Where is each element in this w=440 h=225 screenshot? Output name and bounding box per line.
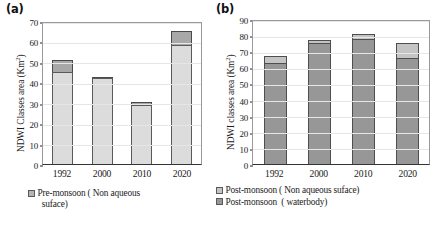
panel-b-legend: Post-monsoon ( Non aqueous suface)Post-m… — [216, 185, 440, 209]
x-tick-label-2020: 2020 — [386, 168, 431, 179]
panel-b-plot-area — [252, 20, 430, 165]
gridline — [253, 69, 429, 70]
bar-slot — [341, 21, 385, 164]
bar-segment-waterbody[interactable] — [131, 105, 152, 164]
x-tick-label-2010: 2010 — [341, 168, 386, 179]
x-tick-label-1992: 1992 — [252, 168, 297, 179]
gridline — [253, 149, 429, 150]
y-tick-label: 30 — [29, 100, 38, 109]
bar-2000[interactable] — [92, 77, 113, 164]
y-tick-label: 50 — [239, 81, 248, 90]
panel-a-plot-area — [42, 22, 202, 165]
y-tick-label: 10 — [29, 141, 38, 150]
legend-label: Post-monsoon ( waterbody) — [226, 197, 328, 208]
legend-swatch-icon — [28, 190, 35, 197]
panel-b: (b) NDWI classes area (Km2) 010203040506… — [214, 0, 440, 225]
bar-segment-waterbody[interactable] — [396, 58, 419, 164]
y-tick-label: 20 — [29, 121, 38, 130]
bar-slot — [43, 23, 83, 164]
bar-1992[interactable] — [52, 60, 73, 164]
legend-label: Pre-monsoon ( Non aqueous suface) — [38, 188, 140, 210]
panel-b-label: (b) — [216, 2, 234, 16]
gridline — [43, 43, 201, 44]
y-tick-label: 60 — [239, 65, 248, 74]
y-tick-label: 80 — [239, 33, 248, 42]
x-tick-label-2020: 2020 — [162, 168, 202, 179]
bar-segment-waterbody[interactable] — [52, 72, 73, 164]
bar-segment-non-aqueous-surface[interactable] — [52, 60, 73, 72]
y-tick-label: 50 — [29, 59, 38, 68]
x-tick-label-2010: 2010 — [122, 168, 162, 179]
y-tick-label: 60 — [29, 39, 38, 48]
gridline — [253, 85, 429, 86]
bar-slot — [385, 21, 429, 164]
legend-item: Post-monsoon ( waterbody) — [216, 197, 440, 208]
gridline — [253, 117, 429, 118]
gridline — [43, 63, 201, 64]
y-tick-label: 70 — [239, 49, 248, 58]
panel-a-y-ticks: 010203040506070 — [18, 22, 40, 165]
gridline — [43, 145, 201, 146]
x-tick-label-2000: 2000 — [297, 168, 342, 179]
panel-a-label: (a) — [6, 2, 24, 16]
y-tick-label: 40 — [239, 97, 248, 106]
bar-segment-non-aqueous-surface[interactable] — [396, 43, 419, 58]
y-tick-label: 70 — [29, 19, 38, 28]
panel-a: (a) NDWI Classes area (Km2) 010203040506… — [0, 0, 214, 225]
y-tick-label: 10 — [239, 145, 248, 154]
y-tick-label: 40 — [29, 80, 38, 89]
legend-label: Post-monsoon ( Non aqueous suface) — [226, 185, 360, 196]
gridline — [253, 133, 429, 134]
y-tick-label: 90 — [239, 17, 248, 26]
bar-2020[interactable] — [396, 43, 419, 164]
bar-segment-waterbody[interactable] — [308, 43, 331, 164]
bar-segment-waterbody[interactable] — [92, 78, 113, 164]
gridline — [43, 125, 201, 126]
bar-1992[interactable] — [264, 56, 287, 164]
y-tick-label: 0 — [244, 162, 248, 171]
figure-root: (a) NDWI Classes area (Km2) 010203040506… — [0, 0, 440, 225]
gridline — [253, 53, 429, 54]
gridline — [253, 101, 429, 102]
bar-2010[interactable] — [131, 102, 152, 164]
bar-slot — [122, 23, 162, 164]
legend-swatch-icon — [216, 198, 223, 205]
y-tick-label: 0 — [34, 162, 38, 171]
gridline — [253, 37, 429, 38]
bar-segment-non-aqueous-surface[interactable] — [264, 56, 287, 63]
panel-a-legend: Pre-monsoon ( Non aqueous suface) — [28, 188, 208, 211]
legend-item: Post-monsoon ( Non aqueous suface) — [216, 185, 440, 196]
panel-a-x-axis-labels: 1992200020102020 — [42, 168, 202, 179]
bar-slot — [253, 21, 297, 164]
gridline — [43, 23, 201, 24]
panel-b-x-axis-labels: 1992200020102020 — [252, 168, 430, 179]
x-tick-label-2000: 2000 — [82, 168, 122, 179]
y-tick-mark — [40, 166, 43, 167]
panel-b-y-ticks: 0102030405060708090 — [228, 20, 250, 165]
bar-slot — [297, 21, 341, 164]
bar-slot — [162, 23, 202, 164]
legend-item: Pre-monsoon ( Non aqueous suface) — [28, 188, 208, 210]
bar-slot — [83, 23, 123, 164]
y-tick-label: 30 — [239, 113, 248, 122]
gridline — [43, 84, 201, 85]
y-tick-mark — [250, 166, 253, 167]
gridline — [43, 104, 201, 105]
y-tick-label: 20 — [239, 129, 248, 138]
x-tick-label-1992: 1992 — [42, 168, 82, 179]
legend-swatch-icon — [216, 187, 223, 194]
gridline — [253, 21, 429, 22]
